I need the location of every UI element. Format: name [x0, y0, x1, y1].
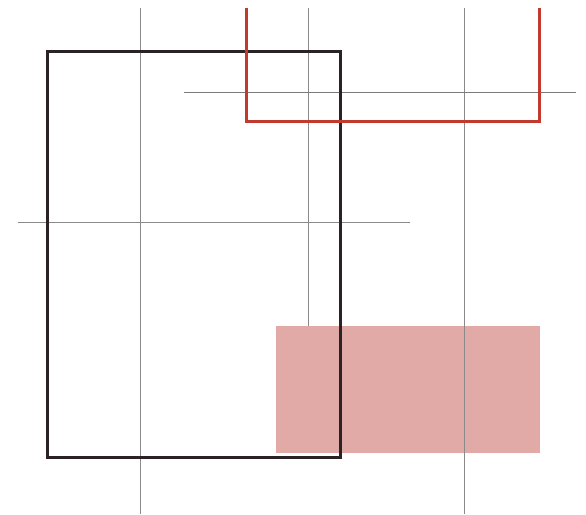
red-u-shape — [245, 8, 541, 123]
canvas — [0, 0, 586, 515]
